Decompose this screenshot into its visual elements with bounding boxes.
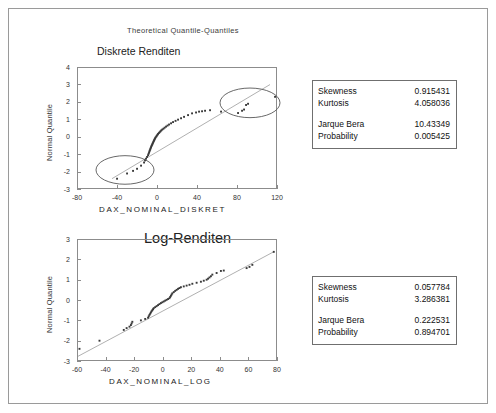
chart-2-stats-table: Skewness0.057784 Kurtosis3.286381 Jarque… <box>312 276 457 345</box>
stat-value: 10.43349 <box>415 119 450 131</box>
table-row: Skewness0.057784 <box>313 282 456 294</box>
data-point <box>249 266 251 268</box>
x-axis-tick-label: -40 <box>104 194 130 201</box>
data-point <box>246 267 248 269</box>
data-point <box>201 110 203 112</box>
data-point <box>144 318 146 320</box>
data-point <box>198 111 200 113</box>
data-point <box>126 327 128 329</box>
x-axis-tick-mark <box>277 185 278 189</box>
y-axis-tick-mark <box>77 137 81 138</box>
data-point <box>123 329 125 331</box>
chart-2-x-axis-label: DAX_NOMINAL_LOG <box>109 377 212 386</box>
table-row: Kurtosis3.286381 <box>313 294 456 306</box>
y-axis-tick-label: -2 <box>48 337 70 344</box>
y-axis-tick-mark <box>77 300 81 301</box>
data-point <box>211 274 213 276</box>
x-axis-tick-mark <box>134 357 135 361</box>
table-row: Jarque Bera10.43349 <box>313 119 456 131</box>
data-point <box>210 275 212 277</box>
figure-header: Theoretical Quantile-Quantiles <box>127 26 239 35</box>
y-axis-tick-label: 0 <box>48 297 70 304</box>
x-axis-tick-label: 40 <box>207 366 233 373</box>
data-point <box>196 282 198 284</box>
y-axis-tick-label: 4 <box>48 64 70 71</box>
data-point <box>241 110 243 112</box>
table-row: Jarque Bera0.222531 <box>313 315 456 327</box>
data-point <box>274 96 276 98</box>
x-axis-tick-mark <box>117 185 118 189</box>
stat-key: Jarque Bera <box>318 315 364 327</box>
y-axis-tick-mark <box>77 189 81 190</box>
data-point <box>223 270 225 272</box>
table-row: Probability0.005425 <box>313 131 456 143</box>
data-point <box>273 251 275 253</box>
chart-1-stats-table: Skewness0.915431 Kurtosis4.058036 Jarque… <box>312 80 457 149</box>
y-axis-tick-label: 2 <box>48 98 70 105</box>
y-axis-tick-mark <box>77 67 81 68</box>
data-point <box>116 178 118 180</box>
data-point <box>143 162 145 164</box>
y-axis-tick-mark <box>77 102 81 103</box>
data-point <box>243 109 245 111</box>
data-point <box>187 114 189 116</box>
table-spacer <box>313 109 456 119</box>
x-axis-tick-mark <box>163 357 164 361</box>
y-axis-tick-mark <box>77 361 81 362</box>
x-axis-tick-label: 0 <box>144 194 170 201</box>
stat-value: 0.222531 <box>415 315 450 327</box>
x-axis-tick-mark <box>157 185 158 189</box>
data-point <box>177 119 179 121</box>
data-point <box>247 103 249 105</box>
data-point <box>209 109 211 111</box>
table-row: Kurtosis4.058036 <box>313 98 456 110</box>
data-point <box>172 121 174 123</box>
x-axis-tick-label: 60 <box>235 366 261 373</box>
y-axis-tick-mark <box>77 280 81 281</box>
data-point <box>189 284 191 286</box>
data-point <box>203 280 205 282</box>
data-point <box>180 117 182 119</box>
data-point <box>204 110 206 112</box>
y-axis-tick-label: 3 <box>48 81 70 88</box>
y-axis-tick-mark <box>77 259 81 260</box>
data-point <box>191 283 193 285</box>
stat-value: 0.915431 <box>415 86 450 98</box>
y-axis-tick-mark <box>77 239 81 240</box>
data-point <box>245 104 247 106</box>
stat-key: Skewness <box>318 86 357 98</box>
data-point <box>168 124 170 126</box>
y-axis-tick-mark <box>77 84 81 85</box>
stat-key: Probability <box>318 131 358 143</box>
data-point <box>186 285 188 287</box>
data-point <box>132 170 134 172</box>
stat-value: 3.286381 <box>415 294 450 306</box>
y-axis-tick-label: -3 <box>48 186 70 193</box>
y-axis-tick-label: 3 <box>48 236 70 243</box>
x-axis-tick-mark <box>237 185 238 189</box>
table-row: Probability0.894701 <box>313 327 456 339</box>
x-axis-tick-mark <box>77 357 78 361</box>
y-axis-tick-mark <box>77 172 81 173</box>
x-axis-tick-label: -20 <box>121 366 147 373</box>
y-axis-tick-label: 0 <box>48 133 70 140</box>
figure-frame: Theoretical Quantile-Quantiles Diskrete … <box>8 8 488 404</box>
stat-value: 0.005425 <box>415 131 450 143</box>
data-point <box>175 120 177 122</box>
stat-key: Kurtosis <box>318 294 349 306</box>
x-axis-tick-mark <box>248 357 249 361</box>
data-point <box>200 281 202 283</box>
x-axis-tick-label: 40 <box>184 194 210 201</box>
data-point <box>220 270 222 272</box>
stat-key: Probability <box>318 327 358 339</box>
data-point <box>130 324 132 326</box>
x-axis-tick-label: -60 <box>64 366 90 373</box>
annotation-ellipse <box>96 156 154 185</box>
data-point <box>183 116 185 118</box>
x-axis-tick-label: 80 <box>224 194 250 201</box>
data-point <box>126 173 128 175</box>
qq-reference-line <box>78 252 274 357</box>
y-axis-tick-label: -2 <box>48 168 70 175</box>
data-point <box>129 326 131 328</box>
y-axis-tick-mark <box>77 320 81 321</box>
